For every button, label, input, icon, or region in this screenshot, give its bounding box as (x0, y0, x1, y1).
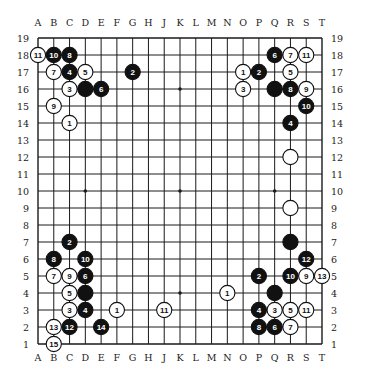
stone-move-number: 2 (67, 238, 72, 247)
row-label: 4 (331, 288, 337, 299)
column-label: L (193, 17, 200, 28)
column-label: A (34, 17, 42, 28)
black-stone: 2 (251, 268, 266, 283)
column-label: R (287, 352, 295, 363)
column-label: H (144, 352, 152, 363)
stone-move-number: 1 (115, 306, 120, 315)
column-label: P (256, 352, 263, 363)
stone-move-number: 6 (272, 51, 277, 60)
row-label: 19 (331, 33, 343, 44)
row-label: 8 (331, 220, 337, 231)
stone-move-number: 11 (302, 51, 311, 60)
column-label: F (114, 352, 121, 363)
stone-move-number: 4 (257, 306, 262, 315)
stone-disc (283, 200, 298, 215)
column-label: N (223, 352, 231, 363)
white-stone: 7 (46, 64, 61, 79)
column-label: S (303, 352, 310, 363)
black-stone: 4 (283, 115, 298, 130)
black-stone: 10 (78, 251, 93, 266)
white-stone: 9 (46, 98, 61, 113)
white-stone: 5 (283, 302, 298, 317)
row-label: 14 (17, 118, 29, 129)
row-label: 8 (23, 220, 29, 231)
stone-move-number: 9 (304, 85, 309, 94)
stone-move-number: 4 (83, 306, 88, 315)
row-label: 16 (17, 84, 29, 95)
stone-disc (267, 285, 282, 300)
row-label: 10 (17, 186, 29, 197)
white-stone: 5 (283, 64, 298, 79)
column-label: T (319, 17, 326, 28)
black-stone: 4 (78, 302, 93, 317)
stone-move-number: 10 (302, 102, 311, 111)
row-label: 1 (23, 339, 29, 350)
row-label: 2 (331, 322, 337, 333)
stone-move-number: 9 (52, 102, 57, 111)
stone-disc (267, 81, 282, 96)
stone-move-number: 8 (52, 255, 57, 264)
column-label: F (114, 17, 121, 28)
stone-move-number: 13 (318, 272, 327, 281)
white-stone: 7 (283, 47, 298, 62)
black-stone: 10 (299, 98, 314, 113)
stone-move-number: 14 (97, 323, 106, 332)
column-label: O (239, 352, 247, 363)
black-stone: 2 (62, 234, 77, 249)
black-stone: 4 (62, 64, 77, 79)
row-label: 18 (331, 50, 343, 61)
stone-move-number: 5 (288, 306, 293, 315)
black-stone: 6 (267, 319, 282, 334)
column-label: Q (271, 17, 279, 28)
row-label: 4 (23, 288, 29, 299)
row-label: 11 (17, 169, 29, 180)
row-label: 12 (17, 152, 29, 163)
white-stone: 7 (283, 319, 298, 334)
row-label: 17 (17, 67, 29, 78)
stone-move-number: 9 (67, 272, 72, 281)
white-stone (283, 149, 298, 164)
white-stone: 11 (157, 302, 172, 317)
white-stone: 3 (236, 81, 251, 96)
white-stone: 13 (46, 319, 61, 334)
stone-move-number: 5 (83, 68, 88, 77)
column-label: C (66, 352, 73, 363)
stone-disc (78, 285, 93, 300)
black-stone: 8 (283, 81, 298, 96)
black-stone: 6 (78, 268, 93, 283)
row-labels-left: 19181716151413121110987654321 (17, 33, 29, 350)
stone-move-number: 11 (302, 306, 311, 315)
black-stone: 12 (299, 251, 314, 266)
column-labels-top: ABCDEFGHJKLMNOPQRST (34, 17, 326, 28)
black-stone: 8 (46, 251, 61, 266)
white-stone: 13 (314, 268, 329, 283)
stone-move-number: 2 (130, 68, 135, 77)
row-label: 5 (23, 271, 29, 282)
white-stone: 11 (299, 47, 314, 62)
stone-move-number: 7 (52, 68, 57, 77)
white-stone: 3 (267, 302, 282, 317)
stone-move-number: 8 (67, 51, 72, 60)
black-stone: 10 (46, 47, 61, 62)
column-label: B (50, 352, 57, 363)
star-point (273, 189, 277, 193)
column-label: E (98, 352, 105, 363)
stone-move-number: 1 (225, 289, 230, 298)
column-labels-bottom: ABCDEFGHJKLMNOPQRST (34, 352, 326, 363)
column-label: R (287, 17, 295, 28)
column-label: E (98, 17, 105, 28)
row-label: 13 (17, 135, 29, 146)
black-stone: 8 (251, 319, 266, 334)
row-label: 11 (331, 169, 343, 180)
column-label: S (303, 17, 310, 28)
star-point (84, 189, 88, 193)
row-label: 9 (331, 203, 337, 214)
stone-move-number: 4 (67, 68, 72, 77)
column-label: A (34, 352, 42, 363)
star-point (178, 189, 182, 193)
stone-move-number: 4 (288, 119, 293, 128)
row-label: 18 (17, 50, 29, 61)
column-label: M (207, 17, 217, 28)
stone-move-number: 6 (83, 272, 88, 281)
black-stone: 6 (94, 81, 109, 96)
